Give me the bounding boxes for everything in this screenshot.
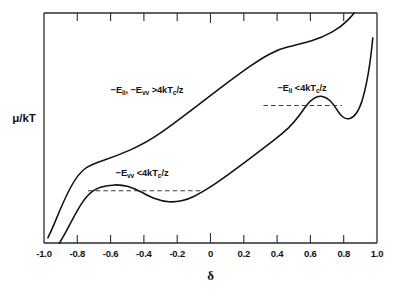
x-axis-title: δ <box>207 268 214 283</box>
x-tick-label: -1.0 <box>36 248 52 259</box>
x-tick-label: 0.8 <box>337 248 350 259</box>
x-tick-label: 0.2 <box>237 248 250 259</box>
x-tick-label: -0.2 <box>169 248 185 259</box>
x-tick-label: 1.0 <box>371 248 384 259</box>
annotation-left-loop: −Evv <4kTc/z <box>116 168 169 179</box>
x-tick-label: -0.4 <box>136 248 152 259</box>
chart-background <box>0 0 399 290</box>
y-axis-title: μ/kT <box>12 112 36 124</box>
chart-svg: -1.0 -0.8 -0.6 -0.4 -0.2 0 0.2 0.4 0.6 0… <box>0 0 399 290</box>
x-tick-label: -0.6 <box>103 248 119 259</box>
chart-figure: -1.0 -0.8 -0.6 -0.4 -0.2 0 0.2 0.4 0.6 0… <box>0 0 399 290</box>
x-tick-label: 0.6 <box>304 248 317 259</box>
x-tick-label: 0.4 <box>271 248 285 259</box>
x-tick-label: 0 <box>208 248 213 259</box>
annotation-right-loop: −Eii <4kTc/z <box>277 83 327 94</box>
x-tick-label: -0.8 <box>70 248 86 259</box>
